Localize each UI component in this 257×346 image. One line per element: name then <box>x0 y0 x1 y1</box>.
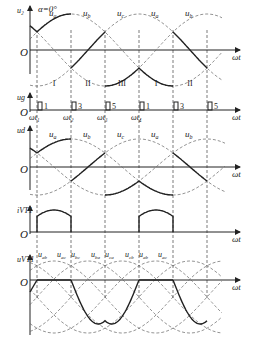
line-voltage-label: uba <box>91 250 101 260</box>
uvt1-blocking-segment <box>173 280 207 324</box>
origin-label: O <box>20 46 28 58</box>
time-label: ωt₃ <box>97 113 108 122</box>
line-voltage-label: ubc <box>71 250 81 260</box>
panel-ivt1: OωtiVT1 <box>17 206 241 244</box>
pulse-number: 5 <box>112 102 116 111</box>
x-axis-label: ωt <box>232 52 241 62</box>
ud-envelope-segment <box>139 181 173 195</box>
line-voltage-label: ucb <box>125 250 134 260</box>
line-voltage-label: uab <box>139 250 149 260</box>
line-voltage-label: uab <box>38 250 48 260</box>
pulse-number: 1 <box>146 102 150 111</box>
origin-label: O <box>20 276 28 288</box>
y-axis-label: ud <box>17 126 26 135</box>
time-label: ωt₄ <box>131 113 142 122</box>
x-axis-label: ωt <box>232 169 241 179</box>
y-axis-label: iVT1 <box>17 206 33 215</box>
interval-label: I <box>53 79 56 88</box>
x-axis-label: ωt <box>232 282 241 292</box>
curve-label: uc <box>117 129 125 140</box>
line-voltage-label: uac <box>158 250 168 260</box>
x-axis-label: ωt <box>232 112 241 122</box>
line-voltage-label: uca <box>105 250 114 260</box>
panel-uvt1: OωtuVT1uabuacubcubaucaucbuabuac <box>17 250 241 335</box>
pulse-number: 1 <box>44 102 48 111</box>
y-axis-label: ug <box>17 93 25 102</box>
curve-label: ub <box>185 129 193 140</box>
uvt1-start <box>30 280 37 292</box>
gate-pulse <box>208 102 212 110</box>
y-axis-label: uVT1 <box>17 255 34 264</box>
pulse-number: 3 <box>180 102 184 111</box>
x-axis-label: ωt <box>232 234 241 244</box>
pulse-number: 5 <box>214 102 218 111</box>
ud-envelope-segment <box>37 139 71 153</box>
current-pulse <box>139 210 173 232</box>
time-label: ωt₁ <box>29 113 40 122</box>
panel-ud: Oωtuduaubucuaub <box>17 126 241 195</box>
pulse-number: 3 <box>78 102 82 111</box>
interval-label: II <box>85 79 91 88</box>
ud-envelope-segment <box>105 181 139 195</box>
panel-u2: Oωtu₂α=0°uaubucuaubIIIIIIIII <box>17 4 241 88</box>
origin-label: O <box>20 228 28 240</box>
curve-label: ua <box>151 129 159 140</box>
gate-pulse <box>38 102 42 110</box>
panel-ug: Oωtug135135ωt₁ωt₂ωt₃ωt₄ <box>17 93 241 122</box>
interval-label: III <box>118 79 126 88</box>
current-pulse <box>37 210 71 232</box>
line-voltage-label: uac <box>57 250 67 260</box>
gate-pulse <box>174 102 178 110</box>
curve-label: ua <box>49 129 57 140</box>
waveform-diagram: Oωtu₂α=0°uaubucuaubIIIIIIIII Oωtug135135… <box>0 0 257 346</box>
gate-pulse <box>106 102 110 110</box>
interval-label: I <box>155 79 158 88</box>
gate-pulse <box>72 102 76 110</box>
curve-label: uc <box>117 8 125 19</box>
origin-label: O <box>20 106 28 118</box>
y-axis-label: u₂ <box>17 6 24 15</box>
origin-label: O <box>20 163 28 175</box>
time-label: ωt₂ <box>63 113 74 122</box>
curve-label: ub <box>83 8 91 19</box>
curve-label: ub <box>83 129 91 140</box>
curve-label: ub <box>185 8 193 19</box>
interval-label: II <box>187 79 193 88</box>
gate-pulse <box>140 102 144 110</box>
curve-label: ua <box>151 8 159 19</box>
